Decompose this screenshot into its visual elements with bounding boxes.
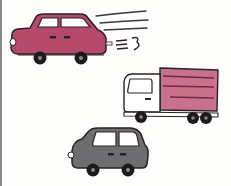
gray-car (68, 128, 148, 177)
vehicles-drawing (0, 0, 231, 186)
exhaust-puff-icon (116, 38, 139, 51)
pink-truck (124, 68, 218, 124)
illustration-canvas (0, 0, 231, 186)
speed-lines-icon (96, 11, 148, 30)
pink-car (10, 14, 112, 65)
